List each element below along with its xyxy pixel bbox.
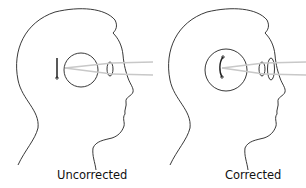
- head-silhouette-right: [169, 9, 286, 170]
- uncorrected-label: Uncorrected: [57, 168, 127, 182]
- retina-image-right: [220, 57, 223, 77]
- uncorrected-panel: [17, 9, 134, 170]
- diagram-canvas: [0, 0, 306, 188]
- head-silhouette-left: [17, 9, 134, 170]
- corrected-label: Corrected: [225, 168, 281, 182]
- light-rays-left: [65, 62, 153, 75]
- corrective-lens-right: [268, 58, 275, 80]
- corrected-panel: [169, 9, 286, 170]
